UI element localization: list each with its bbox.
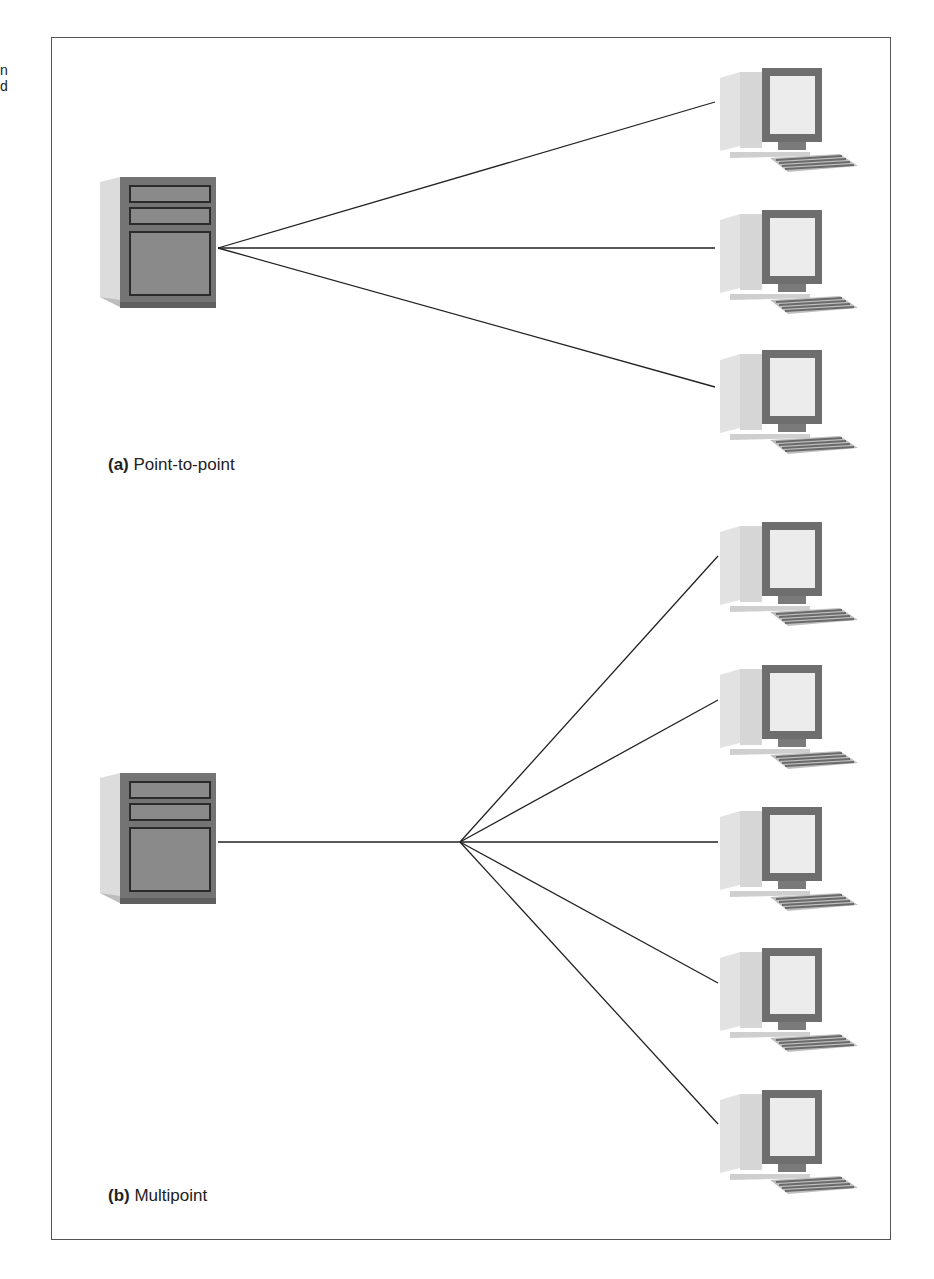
terminal-icon	[710, 1088, 860, 1198]
caption-title: Multipoint	[134, 1186, 207, 1205]
point-to-point-links	[218, 102, 715, 387]
caption-label: (b)	[108, 1186, 130, 1205]
caption-label: (a)	[108, 455, 129, 474]
caption-multipoint: (b) Multipoint	[108, 1186, 207, 1206]
terminal-icon	[710, 946, 860, 1056]
server-icon	[90, 172, 220, 312]
terminal-icon	[710, 348, 860, 458]
terminal-icon	[710, 520, 860, 630]
caption-title: Point-to-point	[134, 455, 235, 474]
server-icon	[90, 768, 220, 908]
terminal-icon	[710, 805, 860, 915]
caption-point-to-point: (a) Point-to-point	[108, 455, 235, 475]
terminal-icon	[710, 663, 860, 773]
multipoint-links	[218, 556, 718, 1124]
terminal-icon	[710, 208, 860, 318]
terminal-icon	[710, 66, 860, 176]
